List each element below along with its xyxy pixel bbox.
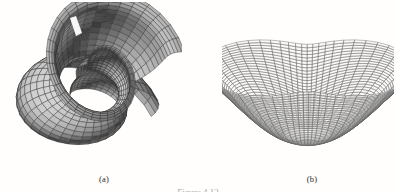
surface-plot-b xyxy=(222,2,394,174)
figure-plate: (a) (b) Figure 4.12 xyxy=(0,0,396,192)
panel-a-sublabel: (a) xyxy=(90,174,118,184)
figure-panel-b xyxy=(222,2,394,174)
figure-caption: Figure 4.12 xyxy=(0,187,396,192)
figure-panel-a xyxy=(6,2,182,176)
panel-b-sublabel: (b) xyxy=(298,174,326,184)
surface-plot-a xyxy=(6,2,182,176)
